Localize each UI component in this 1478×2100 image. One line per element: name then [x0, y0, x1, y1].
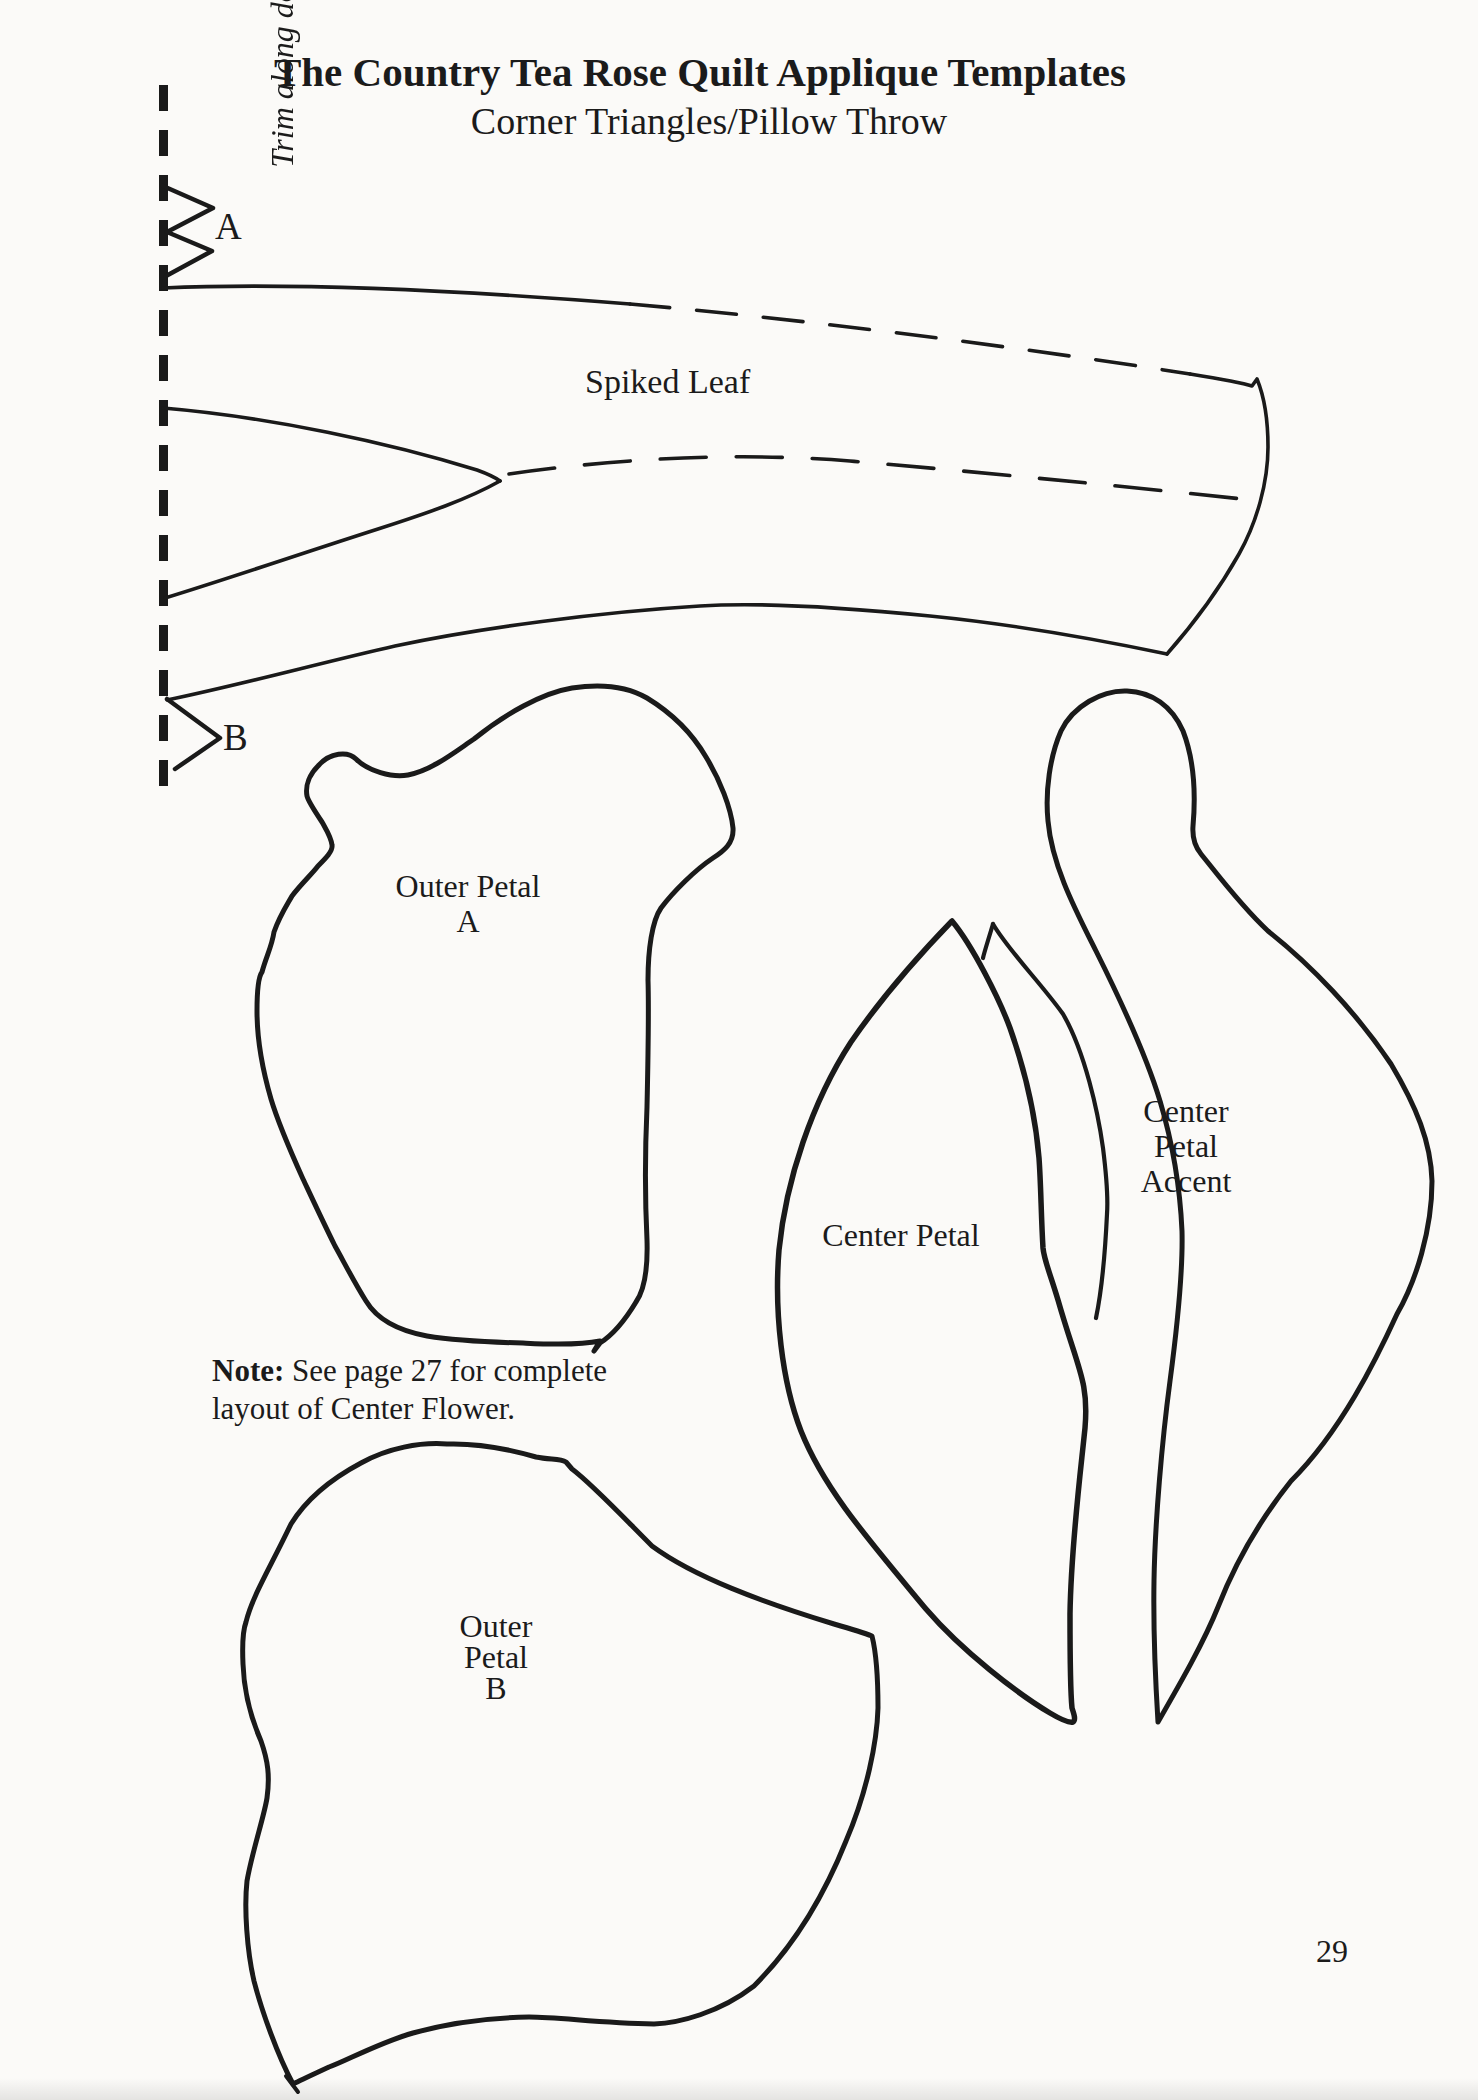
outer-petal-a-outline: [257, 686, 733, 1351]
layout-note-line1: See page 27 for complete: [292, 1353, 607, 1388]
page-title: The Country Tea Rose Quilt Applique Temp…: [0, 48, 1400, 96]
layout-note-label: Note:: [212, 1353, 284, 1388]
outer-petal-b-label-line3: B: [371, 1673, 621, 1704]
center-petal-accent-label: Center Petal Accent: [1061, 1094, 1311, 1199]
spiked-leaf-outline: [163, 286, 1268, 700]
sliver-left-line: [983, 924, 993, 958]
marker-a-label: A: [215, 205, 242, 248]
outer-petal-b-label-line1: Outer: [371, 1611, 621, 1642]
center-petal-outline: [778, 921, 1086, 1722]
center-petal-accent-outline: [1047, 691, 1432, 1722]
outer-petal-b-label-line2: Petal: [371, 1642, 621, 1673]
outer-petal-a-label-line1: Outer Petal: [343, 869, 593, 904]
spiked-leaf-notch-top: [163, 408, 500, 481]
spiked-leaf-bottom-edge: [167, 605, 1167, 700]
notch-marker-b-zigzag: [167, 699, 220, 769]
layout-note: Note: See page 27 for complete layout of…: [212, 1352, 662, 1428]
center-petal-accent-label-line2: Petal: [1061, 1129, 1311, 1164]
scanned-book-page: The Country Tea Rose Quilt Applique Temp…: [0, 0, 1478, 2100]
applique-template-drawing: [0, 0, 1478, 2100]
notch-marker-a-zigzag: [163, 186, 213, 288]
outer-petal-a-label-line2: A: [343, 904, 593, 939]
spiked-leaf-notch-bottom: [165, 481, 500, 598]
layout-note-line2: layout of Center Flower.: [212, 1390, 662, 1428]
spiked-leaf-label: Spiked Leaf: [585, 364, 750, 399]
outer-petal-b-outline: [243, 1444, 878, 2084]
center-petal-label: Center Petal: [776, 1218, 1026, 1253]
spiked-leaf-middle-dashed-line: [509, 457, 1252, 500]
center-petal-accent-label-line3: Accent: [1061, 1164, 1311, 1199]
page-number: 29: [1248, 1933, 1348, 1970]
marker-b-label: B: [223, 716, 248, 759]
trim-instruction: Trim along dotted line.: [264, 0, 306, 306]
spiked-leaf-top-edge-solid: [163, 286, 630, 304]
center-petal-accent-label-line1: Center: [1061, 1094, 1311, 1129]
outer-petal-a-label: Outer Petal A: [343, 869, 593, 939]
page-subtitle: Corner Triangles/Pillow Throw: [0, 99, 1418, 143]
spiked-leaf-right-tip: [1167, 374, 1268, 654]
outer-petal-b-label: Outer Petal B: [371, 1611, 621, 1704]
